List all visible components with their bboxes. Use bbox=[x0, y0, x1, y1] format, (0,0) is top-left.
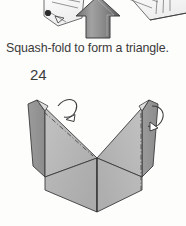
fold-arrow-left-head bbox=[66, 115, 75, 122]
step-24-svg bbox=[0, 86, 186, 226]
right-outer-edge bbox=[142, 100, 158, 177]
corner-dot bbox=[45, 10, 51, 16]
step-24-illustration bbox=[0, 86, 186, 226]
left-paper-fragment bbox=[44, 0, 84, 26]
left-outer-edge bbox=[28, 100, 45, 177]
step-number: 24 bbox=[30, 66, 47, 84]
step-caption: Squash-fold to form a triangle. bbox=[6, 40, 186, 56]
right-wing bbox=[97, 100, 158, 212]
origami-instruction-page: Squash-fold to form a triangle. 24 bbox=[0, 0, 186, 226]
previous-step-illustration bbox=[0, 0, 186, 40]
fold-arrow-left bbox=[58, 100, 77, 122]
left-wing bbox=[28, 100, 97, 212]
previous-step-svg bbox=[0, 0, 186, 40]
right-paper-fragment bbox=[122, 0, 186, 20]
